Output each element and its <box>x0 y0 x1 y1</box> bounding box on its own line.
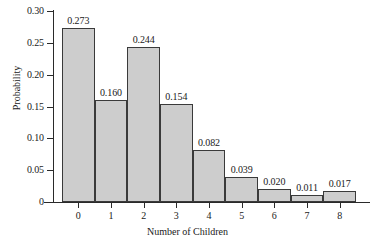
bar-value-label: 0.020 <box>258 177 291 187</box>
y-tick-label: 0.30 <box>4 6 44 16</box>
plot-area: 0.2730.1600.2440.1540.0820.0390.0200.011… <box>53 11 370 202</box>
bar <box>291 195 324 202</box>
y-tick-label: 0.05 <box>4 165 44 175</box>
x-tick-label: 7 <box>292 210 322 221</box>
x-tick-mark <box>176 203 177 208</box>
bar-value-label: 0.039 <box>225 165 258 175</box>
bar <box>323 191 356 202</box>
x-tick-label: 1 <box>96 210 126 221</box>
x-tick-label: 4 <box>194 210 224 221</box>
y-tick-label: 0.20 <box>4 70 44 80</box>
bar-value-label: 0.082 <box>193 138 226 148</box>
x-tick-label: 0 <box>63 210 93 221</box>
bar <box>193 150 226 202</box>
x-tick-mark <box>340 203 341 208</box>
x-tick-mark <box>274 203 275 208</box>
y-tick-label: 0.15 <box>4 102 44 112</box>
bar <box>62 28 95 202</box>
x-axis-line <box>44 202 370 203</box>
x-tick-mark <box>111 203 112 208</box>
bar-value-label: 0.273 <box>62 16 95 26</box>
bar <box>225 177 258 202</box>
y-axis-title: Probability <box>12 43 22 133</box>
x-tick-mark <box>78 203 79 208</box>
bar <box>95 100 128 202</box>
y-tick-label: 0.10 <box>4 133 44 143</box>
bar-value-label: 0.017 <box>323 179 356 189</box>
bar-value-label: 0.244 <box>127 35 160 45</box>
x-tick-label: 3 <box>161 210 191 221</box>
bar <box>127 47 160 202</box>
bar <box>160 104 193 202</box>
x-tick-label: 8 <box>325 210 355 221</box>
y-tick-label: 0.25 <box>4 38 44 48</box>
x-tick-label: 6 <box>259 210 289 221</box>
x-tick-mark <box>209 203 210 208</box>
x-tick-label: 2 <box>129 210 159 221</box>
bar-value-label: 0.154 <box>160 92 193 102</box>
y-tick-label: 0 <box>4 197 44 207</box>
bar <box>258 189 291 202</box>
probability-bar-chart: Probability 0.300.250.200.150.100.050 0.… <box>0 0 375 248</box>
x-tick-mark <box>144 203 145 208</box>
bar-value-label: 0.160 <box>95 88 128 98</box>
x-tick-label: 5 <box>227 210 257 221</box>
bar-value-label: 0.011 <box>291 183 324 193</box>
y-tick-mark <box>47 202 53 203</box>
x-tick-mark <box>307 203 308 208</box>
x-axis-title: Number of Children <box>0 226 375 237</box>
x-tick-mark <box>242 203 243 208</box>
